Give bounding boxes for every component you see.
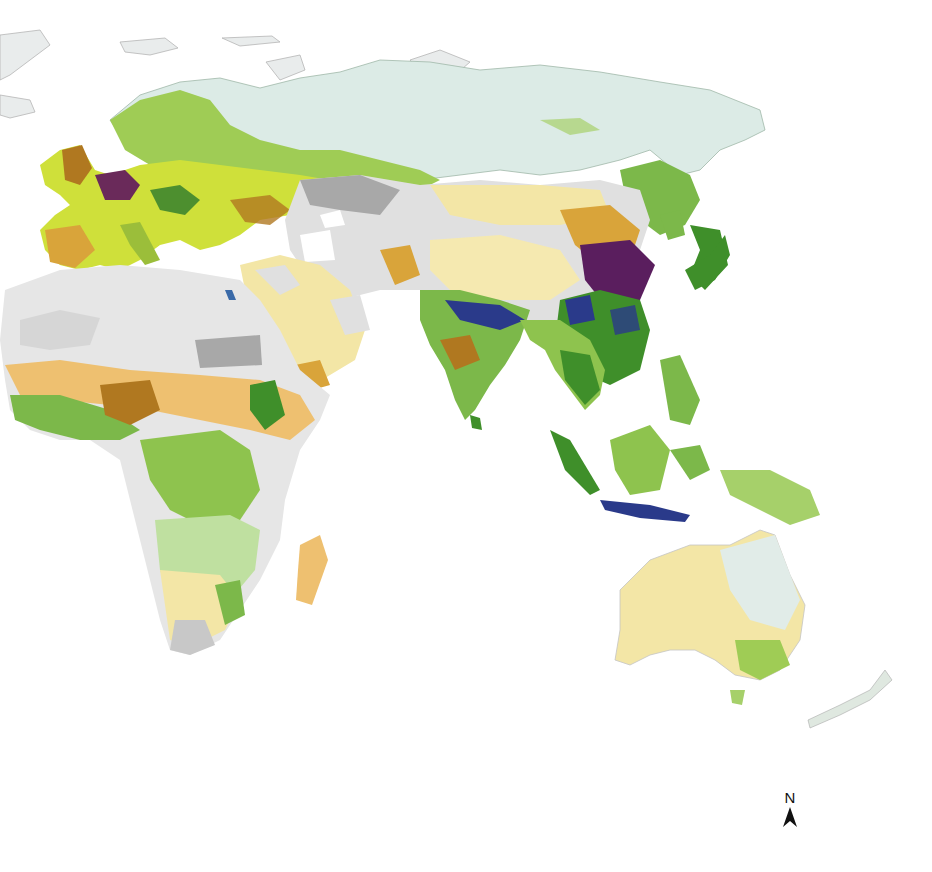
world-map [0,0,932,872]
north-arrow: N [778,790,802,834]
north-arrow-icon [783,807,797,827]
north-label: N [778,790,802,806]
